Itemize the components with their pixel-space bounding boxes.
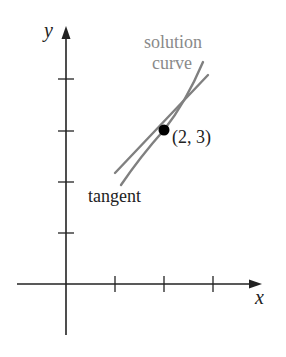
tangent-line [115, 75, 208, 173]
y-axis-label: y [42, 19, 53, 42]
y-axis-arrow-icon [62, 26, 71, 39]
direction-field-figure: y x solution curve (2, 3) tangent [0, 0, 286, 357]
tangent-label: tangent [88, 186, 141, 206]
solution-curve-label-line2: curve [152, 53, 192, 73]
point-marker [159, 125, 170, 136]
diagram-canvas: y x solution curve (2, 3) tangent [0, 0, 286, 357]
solution-curve-label-line1: solution [144, 32, 202, 52]
point-label: (2, 3) [172, 127, 211, 148]
x-axis-label: x [254, 286, 264, 308]
